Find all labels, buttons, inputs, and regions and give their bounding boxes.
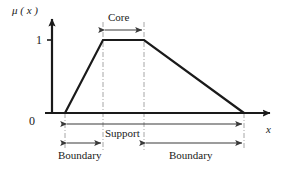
figure-canvas bbox=[0, 0, 288, 171]
y-tick-label-one: 1 bbox=[36, 34, 42, 46]
x-axis-label: x bbox=[266, 124, 271, 135]
fuzzy-membership-figure: μ ( x ) 1 0 x Core Support Boundary Boun… bbox=[0, 0, 288, 171]
origin-label: 0 bbox=[29, 115, 35, 127]
y-axis-label: μ ( x ) bbox=[12, 5, 38, 16]
guide-lines bbox=[65, 22, 244, 150]
membership-curve bbox=[65, 40, 244, 113]
boundary-left-label: Boundary bbox=[58, 150, 101, 161]
support-label: Support bbox=[105, 128, 140, 139]
core-label: Core bbox=[108, 12, 129, 23]
boundary-right-label: Boundary bbox=[169, 150, 212, 161]
